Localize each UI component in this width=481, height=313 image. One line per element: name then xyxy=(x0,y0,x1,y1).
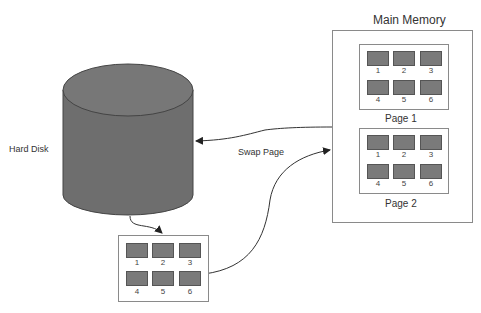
disk-page-cell xyxy=(179,243,201,258)
page-1-cell xyxy=(367,80,389,95)
cell-number: 2 xyxy=(393,150,415,159)
cell-number: 6 xyxy=(179,287,201,296)
page-2-cell xyxy=(393,164,415,179)
cell-number: 3 xyxy=(420,66,442,75)
cell-number: 1 xyxy=(126,258,148,267)
swap-arrow-to-disk xyxy=(196,127,332,141)
page-1-cell xyxy=(420,80,442,95)
main-memory-title: Main Memory xyxy=(373,13,446,27)
cell-number: 1 xyxy=(367,150,389,159)
disk-page-cell xyxy=(126,271,148,286)
cell-number: 5 xyxy=(152,287,174,296)
swap-page-label: Swap Page xyxy=(238,147,284,157)
cell-number: 5 xyxy=(393,179,415,188)
page-1-label: Page 1 xyxy=(385,113,417,124)
cell-number: 2 xyxy=(393,66,415,75)
page-1-cell xyxy=(367,51,389,66)
cell-number: 4 xyxy=(126,287,148,296)
cell-number: 5 xyxy=(393,95,415,104)
hard-disk-label: Hard Disk xyxy=(9,144,49,154)
page-2-cell xyxy=(393,135,415,150)
cell-number: 3 xyxy=(420,150,442,159)
page-to-memory-arrow xyxy=(204,150,330,274)
cell-number: 3 xyxy=(179,258,201,267)
disk-page-cell xyxy=(152,243,174,258)
cell-number: 4 xyxy=(367,95,389,104)
page-1-cell xyxy=(420,51,442,66)
disk-page-cell xyxy=(152,271,174,286)
cell-number: 4 xyxy=(367,179,389,188)
cell-number: 6 xyxy=(420,179,442,188)
disk-to-page-arrow xyxy=(130,216,162,233)
page-2-cell xyxy=(367,164,389,179)
cell-number: 2 xyxy=(152,258,174,267)
page-1-cell xyxy=(393,51,415,66)
disk-page-cell xyxy=(126,243,148,258)
page-2-label: Page 2 xyxy=(385,198,417,209)
page-1-cell xyxy=(393,80,415,95)
page-2-cell xyxy=(367,135,389,150)
page-2-cell xyxy=(420,164,442,179)
hard-disk-cylinder-icon xyxy=(63,64,193,215)
page-2-cell xyxy=(420,135,442,150)
cell-number: 6 xyxy=(420,95,442,104)
cell-number: 1 xyxy=(367,66,389,75)
disk-page-cell xyxy=(179,271,201,286)
